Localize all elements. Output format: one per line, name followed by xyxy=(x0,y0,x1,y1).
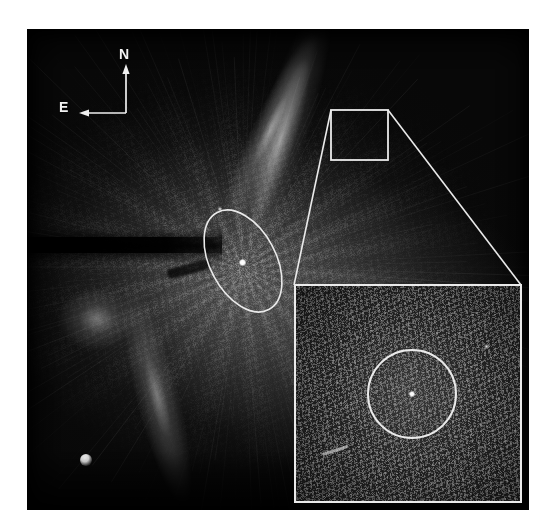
companion-marker-circle xyxy=(368,350,456,438)
compass-north-label: N xyxy=(119,47,129,61)
occulting-bar-feather xyxy=(27,229,222,263)
sw-bright-arc xyxy=(27,255,301,510)
compass-arrows-icon xyxy=(57,39,147,139)
mask-artifact-streak xyxy=(166,259,211,279)
ne-bright-arc-inner xyxy=(140,29,414,281)
figure-root: N E xyxy=(0,0,556,530)
compass-rose: N E xyxy=(57,39,147,139)
sw-bright-point-source xyxy=(80,454,92,466)
main-astronomical-image: N E xyxy=(27,29,529,510)
zoom-source-box xyxy=(331,110,388,160)
zoom-leader-line-right xyxy=(388,110,521,285)
compass-east-label: E xyxy=(59,100,68,114)
magnified-detail-inset xyxy=(294,284,522,503)
zoom-leader-line-left xyxy=(294,110,331,285)
west-bright-blob xyxy=(52,284,142,354)
inset-annotation-layer xyxy=(296,286,520,501)
occulting-bar xyxy=(27,237,227,253)
central-point-source xyxy=(239,259,246,266)
faint-star-point-source xyxy=(218,207,222,211)
